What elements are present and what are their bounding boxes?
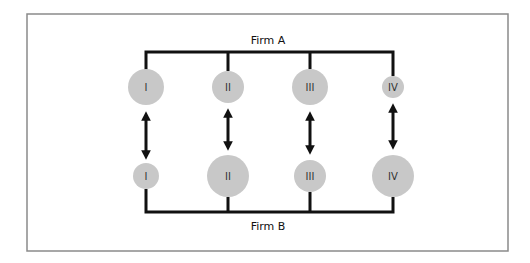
firm-a-unit-iii: III	[292, 69, 328, 105]
svg-text:III: III	[306, 171, 315, 182]
svg-text:IV: IV	[388, 82, 398, 93]
firm-a-label: Firm A	[251, 34, 286, 47]
diagram-frame	[27, 14, 508, 251]
svg-text:III: III	[306, 82, 315, 93]
firm-b-label: Firm B	[251, 220, 286, 233]
firm-a-connector-bar	[146, 52, 393, 76]
link-arrows	[146, 108, 393, 155]
firm-a-group: Firm A I II III IV	[128, 34, 404, 105]
firm-b-unit-ii: II	[207, 155, 249, 197]
svg-text:II: II	[225, 171, 231, 182]
firm-a-unit-ii: II	[212, 71, 244, 103]
firm-a-unit-i: I	[128, 69, 164, 105]
firm-b-unit-iii: III	[294, 160, 326, 192]
svg-text:IV: IV	[388, 171, 398, 182]
svg-text:I: I	[145, 82, 148, 93]
svg-text:I: I	[145, 171, 148, 182]
firm-a-unit-iv: IV	[382, 76, 404, 98]
firm-b-unit-i: I	[133, 163, 159, 189]
firm-b-group: I II III IV Firm B	[133, 155, 414, 233]
firm-b-unit-iv: IV	[372, 155, 414, 197]
firm-units-diagram: Firm A I II III IV I	[0, 0, 530, 263]
firm-b-connector-bar	[146, 189, 393, 212]
svg-text:II: II	[225, 82, 231, 93]
